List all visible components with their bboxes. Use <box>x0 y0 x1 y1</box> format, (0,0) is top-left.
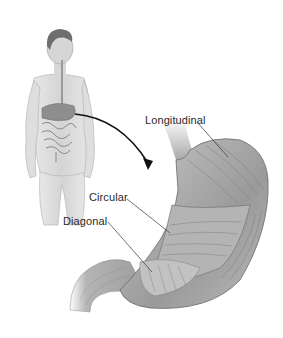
diagram-canvas: Longitudinal Circular Diagonal <box>0 0 283 338</box>
label-longitudinal: Longitudinal <box>145 114 206 126</box>
label-circular: Circular <box>89 191 128 203</box>
label-diagonal: Diagonal <box>63 215 107 227</box>
leader-line-circular <box>127 199 170 233</box>
diagram-illustration <box>0 0 283 338</box>
human-figure <box>26 29 95 225</box>
